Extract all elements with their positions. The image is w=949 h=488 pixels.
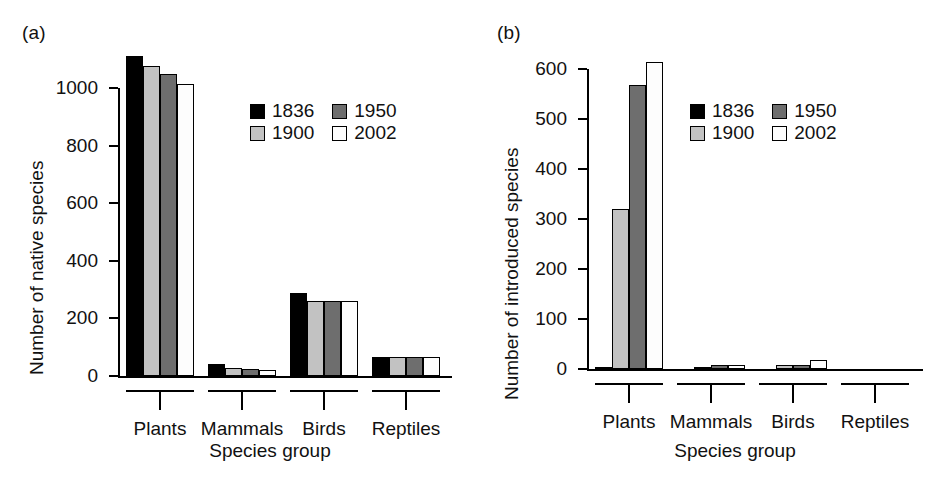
y-axis-tick-label: 800 (0, 135, 98, 157)
legend-swatch-icon (772, 104, 787, 119)
legend-swatch-icon (332, 104, 347, 119)
bar (841, 369, 858, 371)
x-axis-category-label: Reptiles (372, 418, 441, 440)
legend-label: 1836 (272, 100, 314, 122)
bar (341, 301, 358, 376)
y-axis-tick (109, 260, 118, 262)
x-axis-group-bracket (759, 383, 827, 385)
legend-swatch-icon (250, 126, 265, 141)
bar (776, 365, 793, 369)
bar (307, 301, 324, 376)
y-axis-tick-label: 400 (0, 250, 98, 272)
bar (759, 369, 776, 371)
bar (875, 369, 892, 371)
y-axis-tick-label: 500 (467, 108, 567, 130)
y-axis-tick (578, 268, 587, 270)
y-axis-tick-label: 600 (0, 192, 98, 214)
x-axis-group-bracket (841, 383, 909, 385)
y-axis-tick (578, 118, 587, 120)
x-axis-category-label: Birds (302, 418, 345, 440)
panel-a-plot-area: 02004006008001000PlantsMammalsBirdsRepti… (0, 0, 474, 488)
bar (810, 360, 827, 370)
bar (259, 370, 276, 376)
x-axis-group-bracket (290, 390, 358, 392)
legend-item[interactable]: 1900 (690, 122, 754, 144)
bar (406, 357, 423, 376)
legend-label: 1900 (712, 122, 754, 144)
legend-item[interactable]: 1836 (250, 100, 314, 122)
bar (242, 369, 259, 376)
y-axis-tick (578, 318, 587, 320)
x-axis-group-tick (874, 383, 876, 403)
x-axis-group-tick (792, 383, 794, 403)
legend-swatch-icon (772, 126, 787, 141)
y-axis-tick-label: 400 (467, 158, 567, 180)
bar (595, 367, 612, 369)
x-axis-group-tick (405, 390, 407, 410)
panel-a-legend: 1836195019002002 (250, 100, 397, 144)
bar (143, 66, 160, 376)
bar (612, 209, 629, 369)
y-axis-tick (578, 368, 587, 370)
legend-row: 18361950 (690, 100, 837, 122)
bar (372, 357, 389, 376)
y-axis-tick (578, 168, 587, 170)
bar (858, 369, 875, 371)
legend-label: 1836 (712, 100, 754, 122)
y-axis-tick (109, 202, 118, 204)
legend-label: 1950 (794, 100, 836, 122)
bar (711, 365, 728, 369)
y-axis-tick (109, 375, 118, 377)
x-axis-group-tick (323, 390, 325, 410)
bar (126, 56, 143, 376)
x-axis-category-label: Mammals (201, 418, 283, 440)
figure-root: (a) Number of native species Species gro… (0, 0, 949, 488)
x-axis-group-tick (710, 383, 712, 403)
legend-swatch-icon (332, 126, 347, 141)
y-axis-tick-label: 300 (467, 208, 567, 230)
bar (629, 85, 646, 369)
y-axis-tick-label: 200 (467, 258, 567, 280)
legend-label: 1950 (354, 100, 396, 122)
y-axis-tick-label: 0 (0, 365, 98, 387)
x-axis-group-bracket (677, 383, 745, 385)
legend-item[interactable]: 1836 (690, 100, 754, 122)
bar (793, 365, 810, 370)
y-axis-tick-label: 1000 (0, 77, 98, 99)
y-axis-tick (578, 218, 587, 220)
x-axis-category-label: Plants (134, 418, 187, 440)
legend-item[interactable]: 1900 (250, 122, 314, 144)
legend-label: 1900 (272, 122, 314, 144)
bar (728, 365, 745, 369)
legend-item[interactable]: 1950 (772, 100, 836, 122)
legend-item[interactable]: 2002 (332, 122, 396, 144)
bar (892, 369, 909, 371)
x-axis-category-label: Birds (771, 411, 814, 433)
legend-swatch-icon (250, 104, 265, 119)
bar (389, 357, 406, 376)
x-axis-group-tick (159, 390, 161, 410)
bar (177, 84, 194, 376)
x-axis-group-tick (241, 390, 243, 410)
panel-b-legend: 1836195019002002 (690, 100, 837, 144)
y-axis-tick-label: 200 (0, 307, 98, 329)
y-axis-tick-label: 600 (467, 58, 567, 80)
legend-label: 2002 (794, 122, 836, 144)
y-axis-tick (109, 145, 118, 147)
x-axis-group-bracket (126, 390, 194, 392)
legend-row: 18361950 (250, 100, 397, 122)
y-axis-tick-label: 100 (467, 308, 567, 330)
legend-item[interactable]: 1950 (332, 100, 396, 122)
panel-b-plot-area: 0100200300400500600PlantsMammalsBirdsRep… (475, 0, 949, 488)
legend-swatch-icon (690, 104, 705, 119)
bar (208, 364, 225, 376)
y-axis-tick (109, 317, 118, 319)
legend-swatch-icon (690, 126, 705, 141)
legend-item[interactable]: 2002 (772, 122, 836, 144)
x-axis-group-bracket (208, 390, 276, 392)
panel-a: (a) Number of native species Species gro… (0, 0, 474, 488)
legend-row: 19002002 (250, 122, 397, 144)
bar (160, 74, 177, 376)
bar (225, 368, 242, 376)
bar (290, 293, 307, 376)
